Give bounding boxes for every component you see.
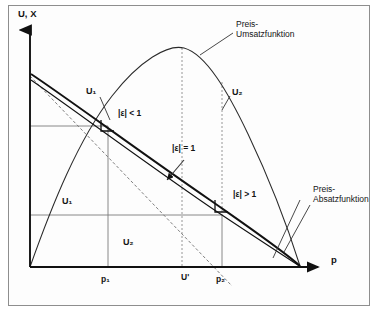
plot-canvas <box>0 0 380 317</box>
leader-revenue-label <box>200 33 233 55</box>
leader-u2-upper <box>222 96 230 110</box>
tick-label-p2: p₂ <box>216 275 225 285</box>
revenue-function-label-line1: Preis- <box>236 19 258 29</box>
demand-function-label: Preis- Absatzfunktion <box>313 185 369 204</box>
demand-function-label-line1: Preis- <box>313 184 335 194</box>
point-label-u2-upper: U₂ <box>232 87 243 97</box>
leader-demand-label-2 <box>273 200 300 258</box>
elasticity-label-inelastic: |ε| < 1 <box>118 109 141 119</box>
revenue-function-label-line2: Umsatzfunktion <box>236 29 295 39</box>
area-label-u1: U₁ <box>62 196 72 206</box>
area-label-u2: U₂ <box>123 237 134 247</box>
figure-root: U, X p Preis- Umsatzfunktion Preis- Absa… <box>0 0 380 317</box>
elasticity-label-unit: |ε| = 1 <box>172 144 195 154</box>
x-axis-label: p <box>331 255 337 266</box>
elasticity-label-elastic: |ε| > 1 <box>233 190 256 200</box>
y-axis-label: U, X <box>18 9 36 20</box>
point-label-u1-upper: U₁ <box>86 86 96 96</box>
tick-label-u-prime: U' <box>181 273 189 283</box>
tick-label-p1: p₁ <box>101 275 110 285</box>
revenue-function-label: Preis- Umsatzfunktion <box>236 20 295 39</box>
price-demand-curve <box>31 74 301 267</box>
demand-function-label-line2: Absatzfunktion <box>313 194 369 204</box>
